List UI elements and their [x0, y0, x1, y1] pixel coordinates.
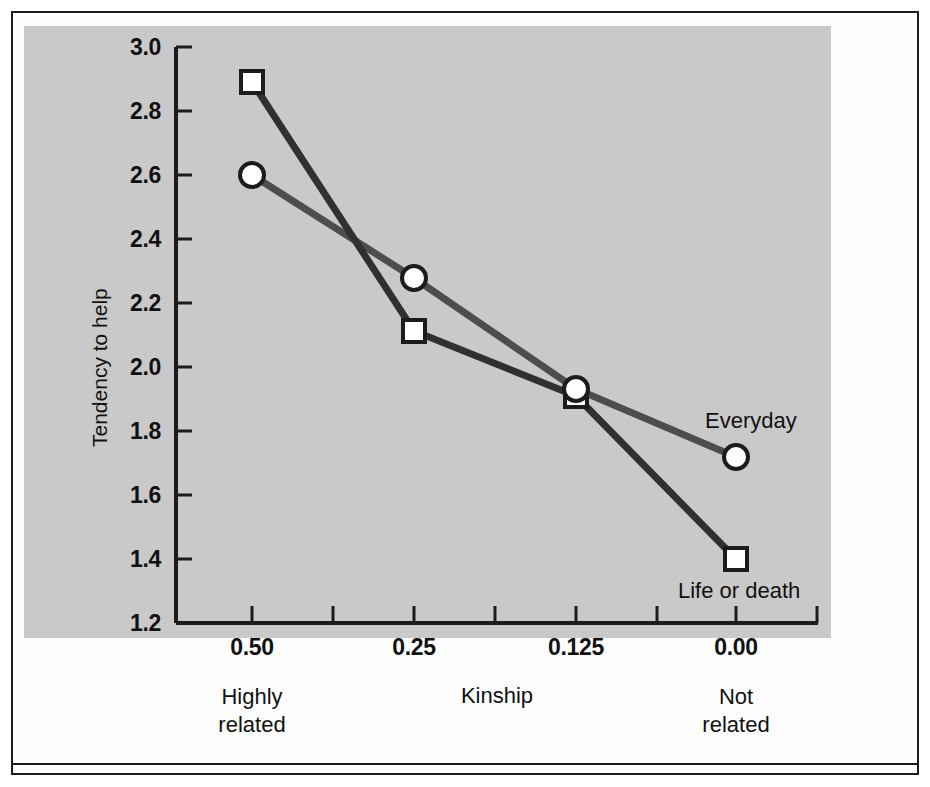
y-tick-label-2-0: 2.0 — [105, 354, 161, 381]
category-label-highly-related-line2: related — [218, 711, 285, 739]
y-tick-label-2-4: 2.4 — [105, 226, 161, 253]
y-tick-label-1-4: 1.4 — [105, 546, 161, 573]
y-tick-marks — [176, 47, 192, 559]
footer-rule — [13, 763, 917, 765]
y-tick-label-2-8: 2.8 — [105, 98, 161, 125]
y-tick-label-2-2: 2.2 — [105, 290, 161, 317]
x-tick-label-0-50: 0.50 — [230, 634, 274, 661]
chart-area: 3.0 2.8 2.6 2.4 2.2 2.0 1.8 1.6 1.4 1.2 … — [0, 0, 930, 787]
y-tick-label-2-6: 2.6 — [105, 162, 161, 189]
x-tick-label-0-00: 0.00 — [714, 634, 758, 661]
y-tick-label-1-8: 1.8 — [105, 418, 161, 445]
category-label-highly-related-line1: Highly — [218, 683, 285, 711]
category-label-not-related-line1: Not — [702, 683, 769, 711]
series-annotation-life-or-death: Life or death — [678, 578, 800, 604]
category-label-not-related: Not related — [702, 683, 769, 739]
x-tick-label-0-125: 0.125 — [548, 634, 604, 661]
y-tick-label-1-2: 1.2 — [105, 610, 161, 637]
series-markers-everyday — [240, 163, 748, 469]
x-axis-title: Kinship — [461, 683, 533, 709]
x-tick-marks — [252, 606, 817, 623]
y-tick-label-3-0: 3.0 — [105, 34, 161, 61]
y-axis-title: Tendency to help — [88, 288, 112, 447]
series-line-life-or-death — [252, 82, 736, 559]
x-tick-label-0-25: 0.25 — [392, 634, 436, 661]
series-annotation-everyday: Everyday — [705, 408, 797, 434]
category-label-highly-related: Highly related — [218, 683, 285, 739]
category-label-not-related-line2: related — [702, 711, 769, 739]
y-tick-label-1-6: 1.6 — [105, 482, 161, 509]
series-line-everyday — [252, 175, 736, 457]
